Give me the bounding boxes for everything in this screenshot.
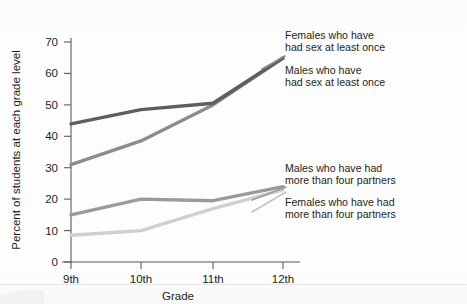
series-line-males-sex [71,58,283,124]
y-tick-label-70: 70 [45,36,58,48]
y-tick-label-0: 0 [52,256,58,268]
series-line-males-four-partners [71,187,283,215]
annotation-females-sex: Females who have had sex at least once [285,29,385,53]
x-tick-label-11th: 11th [202,273,224,285]
leader-line-sex-labels [262,56,285,69]
chart-figure: 0 10 20 30 40 50 60 70 9th 10th 11th 12t… [0,0,467,304]
y-tick-label-20: 20 [45,193,58,205]
x-tick-label-10th: 10th [130,273,152,285]
x-axis-ticks [71,262,283,269]
annotation-males-sex-line2: had sex at least once [285,76,385,88]
annotation-females-four-partners-line1: Females who have had [285,196,395,208]
annotation-males-sex-line1: Males who have [285,64,362,76]
series-line-females-sex [71,58,283,165]
annotation-males-sex: Males who have had sex at least once [285,64,385,88]
y-tick-label-40: 40 [45,130,58,142]
x-tick-label-12th: 12th [272,273,294,285]
y-tick-label-10: 10 [45,225,58,237]
x-tick-label-9th: 9th [63,273,79,285]
annotation-males-four-partners: Males who have had more than four partne… [285,162,396,186]
annotation-males-four-partners-line1: Males who have had [285,162,382,174]
annotation-females-sex-line1: Females who have [285,29,374,41]
y-tick-label-50: 50 [45,99,58,111]
annotation-males-four-partners-line2: more than four partners [285,174,396,186]
annotation-females-sex-line2: had sex at least once [285,41,385,53]
y-axis-title: Percent of students at each grade level [10,50,22,249]
annotation-females-four-partners: Females who have had more than four part… [285,196,396,220]
x-axis-title: Grade [162,290,194,302]
y-axis-ticks [64,42,71,262]
y-tick-label-30: 30 [45,162,58,174]
y-tick-label-60: 60 [45,67,58,79]
annotation-females-four-partners-line2: more than four partners [285,208,396,220]
line-chart-svg: 0 10 20 30 40 50 60 70 9th 10th 11th 12t… [0,0,467,304]
series-line-females-four-partners [71,190,283,236]
